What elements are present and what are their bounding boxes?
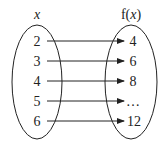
domain-value: 5	[34, 94, 41, 109]
domain-value: 6	[34, 114, 41, 129]
codomain-label: f(x)	[121, 7, 142, 23]
codomain-value: 4	[130, 34, 137, 49]
codomain-value: 6	[130, 54, 137, 69]
domain-value: 4	[34, 74, 41, 89]
codomain-value: 8	[130, 74, 137, 89]
codomain-value: …	[126, 94, 140, 109]
domain-value: 3	[34, 54, 41, 69]
domain-value: 2	[34, 34, 41, 49]
function-mapping-diagram: x f(x) 2 4 3 6 4 8 5 … 6 12	[0, 0, 162, 149]
domain-label: x	[33, 7, 41, 22]
codomain-value: 12	[127, 114, 141, 129]
